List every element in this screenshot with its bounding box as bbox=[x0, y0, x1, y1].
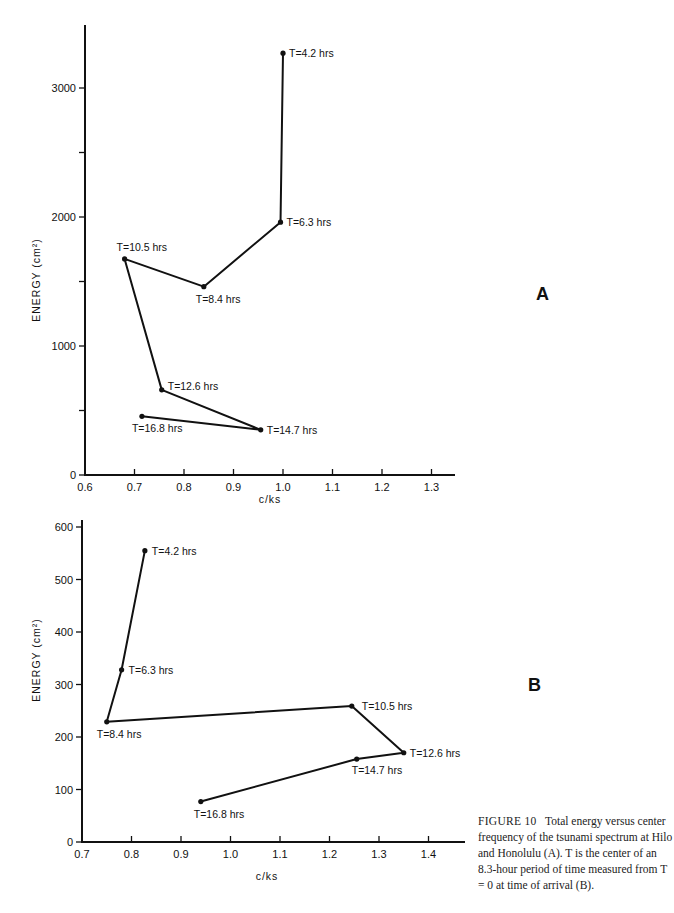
data-point-label: T=12.6 hrs bbox=[410, 747, 461, 759]
figure-canvas: 0.60.70.80.91.01.11.21.30100020003000c/k… bbox=[0, 0, 674, 913]
data-point-label: T=4.2 hrs bbox=[152, 545, 197, 557]
y-tick-label: 100 bbox=[55, 784, 73, 796]
x-tick-label: 0.9 bbox=[226, 481, 241, 493]
data-point-label: T=8.4 hrs bbox=[97, 728, 142, 740]
x-axis-title: c/ks bbox=[256, 870, 279, 882]
x-tick-label: 1.2 bbox=[374, 481, 389, 493]
data-point-label: T=10.5 hrs bbox=[117, 241, 168, 253]
y-tick-label: 0 bbox=[70, 469, 76, 481]
y-tick-label: 3000 bbox=[52, 82, 76, 94]
y-tick-label: 2000 bbox=[52, 211, 76, 223]
data-point bbox=[401, 750, 406, 755]
x-axis-title: c/ks bbox=[259, 493, 282, 505]
y-axis-title: ENERGY (cm²) bbox=[30, 238, 42, 322]
chart-panel-b: 0.70.80.91.01.11.21.31.40100200300400500… bbox=[30, 520, 541, 882]
x-tick-label: 0.7 bbox=[127, 481, 142, 493]
data-point-label: T=14.7 hrs bbox=[352, 764, 403, 776]
figure-caption: FIGURE 10 Total energy versus center fre… bbox=[478, 813, 674, 893]
x-tick-label: 1.1 bbox=[325, 481, 340, 493]
data-point bbox=[258, 427, 263, 432]
data-point bbox=[280, 51, 285, 56]
data-point bbox=[159, 387, 164, 392]
data-point bbox=[278, 220, 283, 225]
data-point bbox=[122, 256, 127, 261]
data-point-label: T=6.3 hrs bbox=[287, 216, 332, 228]
y-tick-label: 600 bbox=[55, 521, 73, 533]
data-point bbox=[142, 548, 147, 553]
y-tick-label: 1000 bbox=[52, 340, 76, 352]
data-point-label: T=12.6 hrs bbox=[168, 380, 219, 392]
x-tick-label: 1.3 bbox=[424, 481, 439, 493]
data-point bbox=[104, 719, 109, 724]
x-tick-label: 1.4 bbox=[421, 848, 436, 860]
x-tick-label: 0.6 bbox=[77, 481, 92, 493]
data-point bbox=[119, 667, 124, 672]
data-point-label: T=8.4 hrs bbox=[196, 293, 241, 305]
data-point bbox=[349, 703, 354, 708]
data-point-label: T=14.7 hrs bbox=[267, 424, 318, 436]
data-point-label: T=16.8 hrs bbox=[132, 422, 183, 434]
data-point-label: T=16.8 hrs bbox=[194, 808, 245, 820]
data-point-label: T=6.3 hrs bbox=[129, 664, 174, 676]
data-point bbox=[201, 284, 206, 289]
x-tick-label: 0.8 bbox=[124, 848, 139, 860]
y-tick-label: 500 bbox=[55, 574, 73, 586]
data-point bbox=[139, 414, 144, 419]
y-tick-label: 0 bbox=[67, 836, 73, 848]
figure-label: FIGURE 10 bbox=[478, 815, 537, 827]
panel-letter: A bbox=[536, 284, 549, 304]
x-tick-label: 1.0 bbox=[223, 848, 238, 860]
panel-letter: B bbox=[528, 675, 541, 695]
x-tick-label: 0.8 bbox=[176, 481, 191, 493]
y-axis-title: ENERGY (cm²) bbox=[30, 618, 42, 702]
chart-panel-a: 0.60.70.80.91.01.11.21.30100020003000c/k… bbox=[30, 25, 549, 505]
data-point-label: T=4.2 hrs bbox=[289, 47, 334, 59]
x-tick-label: 0.7 bbox=[74, 848, 89, 860]
x-tick-label: 1.0 bbox=[275, 481, 290, 493]
data-point bbox=[354, 756, 359, 761]
x-tick-label: 0.9 bbox=[173, 848, 188, 860]
x-tick-label: 1.3 bbox=[371, 848, 386, 860]
data-point-label: T=10.5 hrs bbox=[362, 700, 413, 712]
x-tick-label: 1.1 bbox=[272, 848, 287, 860]
x-tick-label: 1.2 bbox=[322, 848, 337, 860]
y-tick-label: 300 bbox=[55, 679, 73, 691]
y-tick-label: 200 bbox=[55, 731, 73, 743]
y-tick-label: 400 bbox=[55, 626, 73, 638]
data-point bbox=[198, 799, 203, 804]
